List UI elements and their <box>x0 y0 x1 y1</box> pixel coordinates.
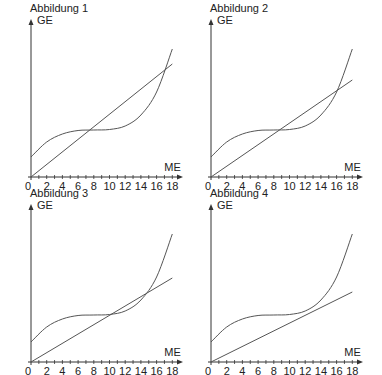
x-axis-label: ME <box>344 346 361 358</box>
y-axis-arrow-icon <box>209 19 214 25</box>
chart-plot-area <box>180 0 371 187</box>
cost-curve <box>31 234 172 342</box>
chart-title: Abbildung 4 <box>210 187 268 199</box>
cost-curve <box>211 49 352 157</box>
x-tick-label: 6 <box>255 365 261 375</box>
y-axis-arrow-icon <box>29 19 34 25</box>
x-tick-label: 16 <box>330 365 342 375</box>
cost-curve <box>31 49 172 157</box>
chart-abbildung-4: Abbildung 4GEME024681012141618 <box>180 185 371 372</box>
y-axis-label: GE <box>37 14 53 26</box>
revenue-line <box>211 292 352 362</box>
revenue-line <box>31 278 172 362</box>
x-tick-label: 10 <box>283 365 295 375</box>
x-tick-label: 2 <box>44 365 50 375</box>
revenue-line <box>211 80 352 177</box>
x-tick-label: 4 <box>239 365 245 375</box>
chart-plot-area <box>0 185 191 372</box>
x-tick-label: 16 <box>150 365 162 375</box>
chart-abbildung-1: Abbildung 1GEME024681012141618 <box>0 0 191 187</box>
chart-plot-area <box>0 0 191 187</box>
x-tick-label: 4 <box>59 365 65 375</box>
x-tick-label: 14 <box>135 365 147 375</box>
x-axis-label: ME <box>164 346 181 358</box>
origin-label: 0 <box>25 365 31 375</box>
chart-abbildung-3: Abbildung 3GEME024681012141618 <box>0 185 191 372</box>
x-axis-label: ME <box>164 161 181 173</box>
x-tick-label: 10 <box>103 365 115 375</box>
x-tick-label: 18 <box>166 365 178 375</box>
chart-abbildung-2: Abbildung 2GEME024681012141618 <box>180 0 371 187</box>
origin-label: 0 <box>205 365 211 375</box>
y-axis-arrow-icon <box>209 204 214 210</box>
chart-title: Abbildung 3 <box>30 187 88 199</box>
chart-plot-area <box>180 185 371 372</box>
x-axis-arrow-icon <box>357 175 363 180</box>
y-axis-label: GE <box>217 199 233 211</box>
revenue-line <box>31 64 172 177</box>
x-tick-label: 14 <box>315 365 327 375</box>
y-axis-label: GE <box>217 14 233 26</box>
x-tick-label: 12 <box>299 365 311 375</box>
cost-curve <box>211 234 352 342</box>
x-tick-label: 12 <box>119 365 131 375</box>
x-tick-label: 18 <box>346 365 358 375</box>
y-axis-label: GE <box>37 199 53 211</box>
chart-title: Abbildung 1 <box>30 2 88 14</box>
y-axis-arrow-icon <box>29 204 34 210</box>
chart-title: Abbildung 2 <box>210 2 268 14</box>
x-axis-label: ME <box>344 161 361 173</box>
x-tick-label: 6 <box>75 365 81 375</box>
x-axis-arrow-icon <box>357 360 363 365</box>
x-tick-label: 2 <box>224 365 230 375</box>
x-tick-label: 8 <box>91 365 97 375</box>
x-tick-label: 8 <box>271 365 277 375</box>
